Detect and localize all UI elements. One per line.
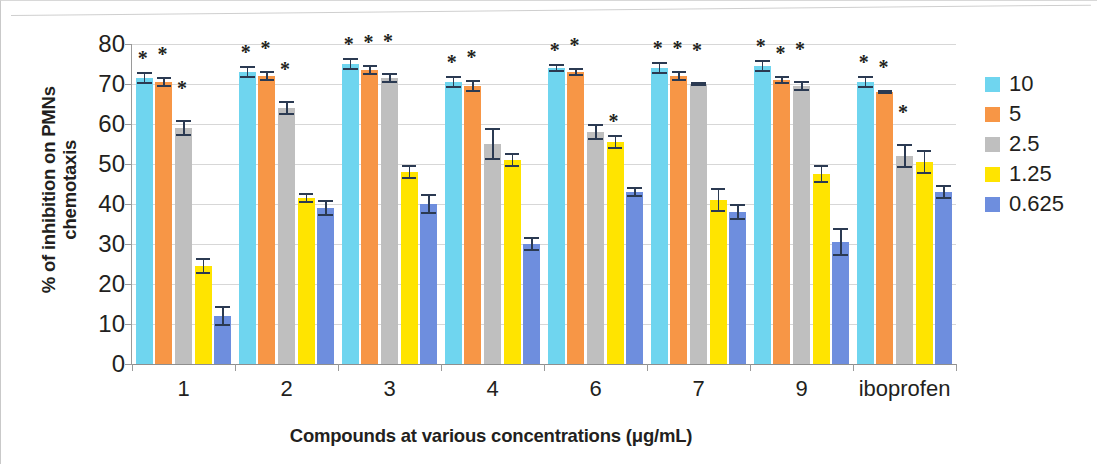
bar-group: ** xyxy=(441,44,544,364)
bar xyxy=(484,144,501,364)
x-axis-tick xyxy=(441,364,442,371)
x-axis-tick xyxy=(647,364,648,371)
bar-group: *** xyxy=(235,44,338,364)
legend-color-swatch xyxy=(985,167,1000,182)
error-bar-stem xyxy=(350,58,352,70)
bar xyxy=(464,86,481,364)
error-bar-stem xyxy=(492,128,494,160)
x-axis-tick xyxy=(853,364,854,371)
x-axis-category-label: 3 xyxy=(338,378,441,400)
error-bar xyxy=(653,62,666,74)
error-bar xyxy=(918,150,931,174)
bar-group: *** xyxy=(544,44,647,364)
bar xyxy=(278,108,295,364)
bar xyxy=(567,72,584,364)
error-bar-stem xyxy=(575,68,577,76)
error-bar xyxy=(525,237,538,251)
legend-color-swatch xyxy=(985,197,1000,212)
error-bar-stem xyxy=(266,71,268,81)
y-axis-tick xyxy=(125,244,132,245)
error-bar-stem xyxy=(821,165,823,183)
x-axis-title: Compounds at various concentrations (μg/… xyxy=(1,425,981,447)
bar xyxy=(504,160,521,364)
error-bar-stem xyxy=(556,64,558,72)
significance-marker: * xyxy=(569,35,579,55)
bar xyxy=(729,212,746,364)
error-bar xyxy=(177,120,190,136)
error-bar-stem xyxy=(884,90,886,93)
significance-marker: * xyxy=(466,47,476,67)
error-bar xyxy=(280,101,293,115)
significance-marker: * xyxy=(609,111,619,131)
bar xyxy=(258,76,275,364)
bar xyxy=(754,66,771,364)
bar xyxy=(136,78,153,364)
error-bar xyxy=(834,228,847,256)
error-bar-stem xyxy=(222,306,224,326)
error-bar xyxy=(569,68,582,76)
bar xyxy=(239,72,256,364)
error-bar xyxy=(319,200,332,216)
error-bar xyxy=(260,71,273,81)
error-bar-stem xyxy=(428,194,430,214)
significance-marker: * xyxy=(775,43,785,63)
y-axis-tick-label: 80 xyxy=(65,32,125,56)
x-axis-category-label: 6 xyxy=(544,378,647,400)
error-bar-stem xyxy=(389,73,391,83)
error-bar-stem xyxy=(531,237,533,251)
y-axis-tick xyxy=(125,364,132,365)
significance-marker: * xyxy=(157,44,167,64)
bar xyxy=(445,82,462,364)
bar xyxy=(670,76,687,364)
error-bar-stem xyxy=(659,62,661,74)
error-bar xyxy=(589,124,602,140)
y-axis-tick xyxy=(125,44,132,45)
error-bar xyxy=(216,306,229,326)
bar xyxy=(690,84,707,364)
significance-marker: * xyxy=(344,34,354,54)
bar xyxy=(832,242,849,364)
significance-marker: * xyxy=(447,52,457,72)
error-bar xyxy=(859,76,872,88)
error-bar-stem xyxy=(409,165,411,179)
bar xyxy=(651,68,668,364)
y-axis-tick xyxy=(125,84,132,85)
y-axis-tick-labels: 01020304050607080 xyxy=(53,44,125,364)
y-axis-tick-label: 30 xyxy=(65,232,125,256)
x-axis-tick xyxy=(338,364,339,371)
bar-group: *** xyxy=(338,44,441,364)
error-bar xyxy=(197,258,210,274)
y-axis-tick xyxy=(125,324,132,325)
error-bar-stem xyxy=(737,204,739,220)
bar xyxy=(587,132,604,364)
error-bar xyxy=(157,77,170,87)
legend-item-label: 2.5 xyxy=(1009,133,1040,155)
bar xyxy=(935,192,952,364)
error-bar-stem xyxy=(904,144,906,168)
y-axis-tick-label: 70 xyxy=(65,72,125,96)
bar xyxy=(155,82,172,364)
bar xyxy=(916,162,933,364)
x-axis-category-label: 7 xyxy=(647,378,750,400)
x-axis-category-label: 9 xyxy=(750,378,853,400)
error-bar xyxy=(609,135,622,149)
error-bar-stem xyxy=(840,228,842,256)
error-bar-stem xyxy=(595,124,597,140)
bar-group: *** xyxy=(853,44,956,364)
y-axis-tick-label: 10 xyxy=(65,312,125,336)
legend-item: 2.5 xyxy=(985,129,1095,159)
error-bar-stem xyxy=(183,120,185,136)
error-bar-stem xyxy=(762,60,764,72)
y-axis-tick xyxy=(125,164,132,165)
error-bar-stem xyxy=(512,153,514,167)
error-bar-stem xyxy=(306,193,308,203)
x-axis-tick xyxy=(235,364,236,371)
error-bar-stem xyxy=(144,72,146,84)
error-bar-stem xyxy=(781,76,783,84)
significance-marker: * xyxy=(241,42,251,62)
y-axis-tick-label: 50 xyxy=(65,152,125,176)
significance-marker: * xyxy=(177,78,187,98)
error-bar xyxy=(241,66,254,78)
y-axis-tick xyxy=(125,204,132,205)
error-bar xyxy=(422,194,435,214)
